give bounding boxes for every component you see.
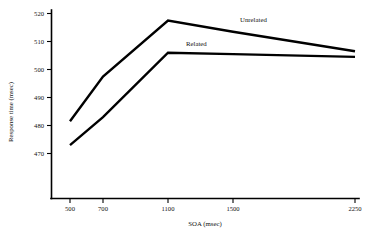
x-tick-label-500: 500 — [65, 205, 76, 212]
y-tick-label-520: 520 — [34, 10, 45, 17]
x-tick-label-1500: 1500 — [226, 205, 240, 212]
series-label-unrelated: Unrelated — [240, 16, 267, 23]
y-tick-label-480: 480 — [34, 122, 45, 129]
chart-figure: Response time (msec) 520 510 500 490 480… — [0, 0, 368, 236]
line-chart: Response time (msec) 520 510 500 490 480… — [0, 0, 368, 236]
x-tick-label-2250: 2250 — [348, 205, 362, 212]
x-tick-label-700: 700 — [98, 205, 109, 212]
y-axis-title: Response time (msec) — [7, 82, 15, 142]
x-tick-label-1100: 1100 — [162, 205, 176, 212]
y-tick-label-510: 510 — [34, 38, 45, 45]
x-axis-title: SOA (msec) — [188, 220, 221, 228]
y-tick-label-500: 500 — [34, 66, 45, 73]
y-tick-label-490: 490 — [34, 94, 45, 101]
y-axis-tick-labels: 520 510 500 490 480 470 — [34, 10, 45, 157]
y-tick-label-470: 470 — [34, 150, 45, 157]
series-label-related: Related — [186, 40, 207, 47]
x-axis-tick-labels: 500 700 1100 1500 2250 — [65, 205, 362, 212]
